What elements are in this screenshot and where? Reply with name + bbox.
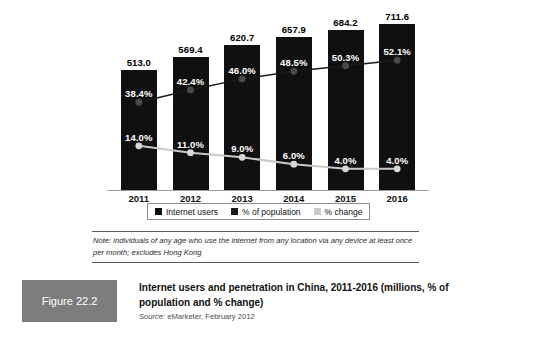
- population-value-label: 50.3%: [323, 52, 369, 63]
- change-value-label: 14.0%: [116, 132, 162, 143]
- data-point-marker: [135, 142, 142, 149]
- figure-source-value: eMarketer, February 2012: [165, 312, 254, 321]
- legend-label-percent-of-population: % of population: [242, 207, 301, 217]
- legend-swatch-percent-of-population: [231, 208, 238, 215]
- chart-note-text: Note: individuals of any age who use the…: [92, 232, 419, 262]
- change-value-label: 11.0%: [168, 139, 214, 150]
- legend-item-percent-change: % change: [314, 207, 363, 217]
- data-point-marker: [239, 154, 246, 161]
- legend-swatch-percent-change: [314, 208, 321, 215]
- figure-caption-row: Figure 22.2 Internet users and penetrati…: [22, 280, 516, 322]
- change-value-label: 6.0%: [271, 150, 317, 161]
- data-point-marker: [394, 165, 401, 172]
- data-point-marker: [239, 76, 246, 83]
- data-point-marker: [342, 62, 349, 69]
- figure-source-label: Source:: [139, 312, 165, 321]
- data-point-marker: [290, 161, 297, 168]
- population-value-label: 48.5%: [271, 57, 317, 68]
- population-value-label: 38.4%: [116, 88, 162, 99]
- legend-label-internet-users: Internet users: [166, 207, 218, 217]
- figure-source-line: Source: eMarketer, February 2012: [139, 312, 469, 321]
- data-point-marker: [290, 68, 297, 75]
- figure-caption-title: Internet users and penetration in China,…: [139, 281, 469, 310]
- legend-swatch-internet-users: [155, 208, 162, 215]
- data-point-marker: [135, 99, 142, 106]
- change-value-label: 9.0%: [219, 143, 265, 154]
- figure-number-tag: Figure 22.2: [22, 280, 117, 322]
- data-point-marker: [187, 87, 194, 94]
- change-value-label: 4.0%: [323, 155, 369, 166]
- legend-item-internet-users: Internet users: [155, 207, 218, 217]
- change-value-label: 4.0%: [374, 155, 420, 166]
- data-point-marker: [342, 165, 349, 172]
- population-value-label: 46.0%: [219, 65, 265, 76]
- legend-item-percent-of-population: % of population: [231, 207, 301, 217]
- population-value-label: 42.4%: [168, 76, 214, 87]
- data-point-marker: [187, 149, 194, 156]
- population-value-label: 52.1%: [374, 46, 420, 57]
- figure-caption-text: Internet users and penetration in China,…: [139, 280, 469, 321]
- x-axis-tick-2016: 2016: [373, 193, 421, 204]
- x-axis-line: [107, 190, 429, 191]
- figure-panel: 513.0569.4620.7657.9684.2711.6 38.4%14.0…: [0, 0, 537, 358]
- legend-label-percent-change: % change: [325, 207, 363, 217]
- data-point-marker: [394, 57, 401, 64]
- note-rule-bottom: [92, 262, 419, 263]
- chart-plot-area: 513.0569.4620.7657.9684.2711.6 38.4%14.0…: [113, 8, 423, 190]
- chart-legend: Internet users % of population % change: [147, 203, 370, 220]
- chart-note-block: Note: individuals of any age who use the…: [92, 231, 419, 263]
